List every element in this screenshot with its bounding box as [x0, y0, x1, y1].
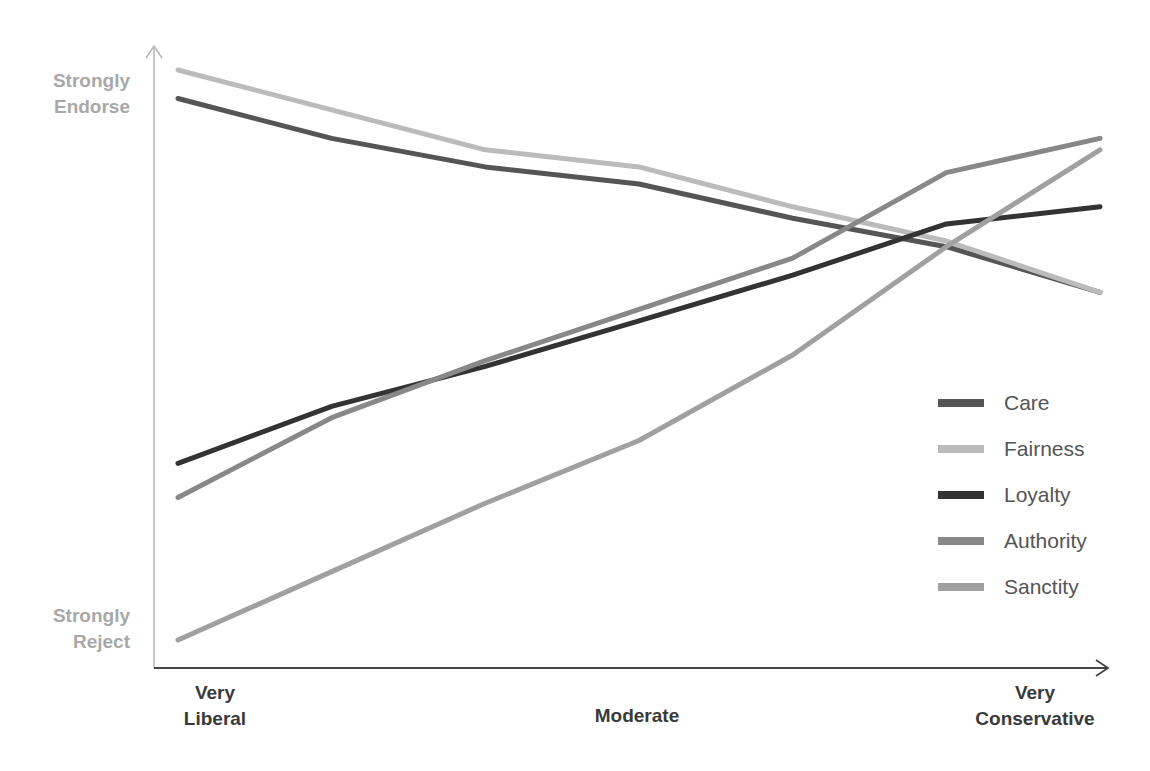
legend-item-sanctity: Sanctity — [938, 564, 1087, 610]
x-label-moderate: Moderate — [567, 703, 707, 729]
legend-label: Fairness — [1004, 437, 1085, 461]
y-label-line-2: Reject — [0, 629, 130, 655]
y-label-strongly-endorse: Strongly Endorse — [0, 68, 130, 120]
y-label-strongly-reject: Strongly Reject — [0, 603, 130, 655]
y-label-line-2: Endorse — [0, 94, 130, 120]
legend-item-care: Care — [938, 380, 1087, 426]
y-axis — [146, 46, 162, 668]
x-axis — [154, 660, 1108, 676]
legend: Care Fairness Loyalty Authority Sanctity — [938, 380, 1087, 610]
x-label-line-1: Very — [950, 680, 1120, 706]
legend-label: Care — [1004, 391, 1050, 415]
legend-label: Authority — [1004, 529, 1087, 553]
x-label-very-conservative: Very Conservative — [950, 680, 1120, 732]
series-line-care — [178, 99, 1100, 293]
legend-swatch-icon — [938, 399, 984, 407]
legend-label: Loyalty — [1004, 483, 1071, 507]
y-label-line-1: Strongly — [0, 603, 130, 629]
legend-item-fairness: Fairness — [938, 426, 1087, 472]
legend-swatch-icon — [938, 445, 984, 453]
legend-label: Sanctity — [1004, 575, 1079, 599]
series-line-fairness — [178, 70, 1100, 292]
legend-swatch-icon — [938, 491, 984, 499]
x-label-line-2: Liberal — [150, 706, 280, 732]
x-label-line-1: Very — [150, 680, 280, 706]
legend-swatch-icon — [938, 583, 984, 591]
x-label-line-1: Moderate — [567, 703, 707, 729]
legend-swatch-icon — [938, 537, 984, 545]
y-label-line-1: Strongly — [0, 68, 130, 94]
x-label-very-liberal: Very Liberal — [150, 680, 280, 732]
x-label-line-2: Conservative — [950, 706, 1120, 732]
legend-item-authority: Authority — [938, 518, 1087, 564]
legend-item-loyalty: Loyalty — [938, 472, 1087, 518]
